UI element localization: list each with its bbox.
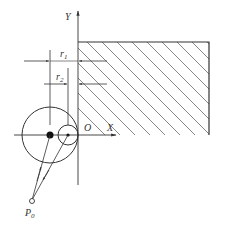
origin-label: O — [84, 122, 91, 133]
y-axis-label: Y — [65, 11, 72, 22]
r1-dimension: r1 — [24, 48, 107, 125]
geometry-diagram: Y X O r1 r2 P0 — [0, 0, 251, 227]
hatched-workpiece — [0, 30, 251, 150]
r2-label: r2 — [56, 71, 64, 84]
start-point-p0 — [30, 199, 35, 204]
r2-dimension: r2 — [44, 68, 107, 125]
x-axis-label: X — [106, 122, 114, 133]
approach-paths — [32, 135, 68, 200]
p0-label: P0 — [24, 207, 35, 220]
r1-label: r1 — [60, 48, 67, 61]
